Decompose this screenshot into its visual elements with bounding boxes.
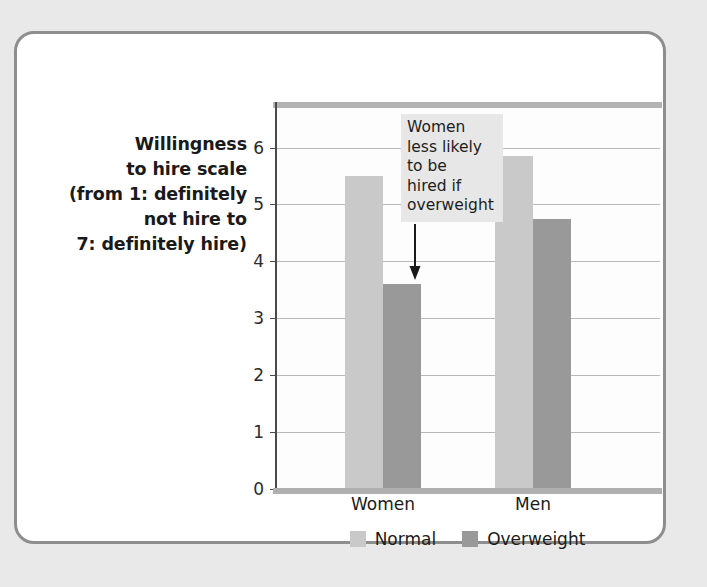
x-axis-line <box>273 488 662 494</box>
annotation-line: overweight <box>407 196 497 216</box>
y-axis-caption-line: Willingness <box>27 132 247 157</box>
legend-swatch-overweight <box>462 531 478 547</box>
y-axis-caption-line: not hire to <box>27 207 247 232</box>
legend-label: Overweight <box>487 529 585 549</box>
y-axis-tick-label: 3 <box>253 308 264 328</box>
legend-label: Normal <box>375 529 437 549</box>
legend-entry-overweight[interactable]: Overweight <box>462 529 585 549</box>
y-axis-caption-line: to hire scale <box>27 157 247 182</box>
figure-page: Willingness to hire scale (from 1: defin… <box>0 0 707 587</box>
bar-men-overweight <box>533 219 571 489</box>
y-axis-caption-line: (from 1: definitely <box>27 182 247 207</box>
gridline <box>275 261 660 262</box>
gridline <box>275 432 660 433</box>
y-axis-caption-line: 7: definitely hire) <box>27 232 247 257</box>
annotation-line: less likely <box>407 138 497 158</box>
y-axis-line <box>275 102 277 489</box>
bar-women-overweight <box>383 284 421 489</box>
legend: NormalOverweight <box>275 529 660 549</box>
gridline <box>275 318 660 319</box>
y-axis-tick-label: 2 <box>253 365 264 385</box>
y-axis-tick-label: 5 <box>253 194 264 214</box>
annotation-line: Women <box>407 118 497 138</box>
gridline <box>275 375 660 376</box>
y-axis-tick-label: 1 <box>253 422 264 442</box>
y-axis-tick-label: 4 <box>253 251 264 271</box>
y-axis-tick-label: 6 <box>253 138 264 158</box>
down-arrow-icon <box>408 224 422 282</box>
bar-women-normal <box>345 176 383 489</box>
legend-entry-normal[interactable]: Normal <box>350 529 437 549</box>
x-axis-category-label: Women <box>351 494 415 514</box>
plot-top-border <box>273 102 662 108</box>
annotation-callout: Women less likely to be hired if overwei… <box>401 114 503 222</box>
annotation-line: hired if <box>407 177 497 197</box>
annotation-line: to be <box>407 157 497 177</box>
y-axis-tick-label: 0 <box>253 479 264 499</box>
figure-frame: Willingness to hire scale (from 1: defin… <box>14 31 666 544</box>
legend-swatch-normal <box>350 531 366 547</box>
x-axis-category-label: Men <box>515 494 551 514</box>
y-axis-caption: Willingness to hire scale (from 1: defin… <box>27 132 247 257</box>
plot-area: 0123456 WomenMen Women less likely to be… <box>275 102 660 489</box>
